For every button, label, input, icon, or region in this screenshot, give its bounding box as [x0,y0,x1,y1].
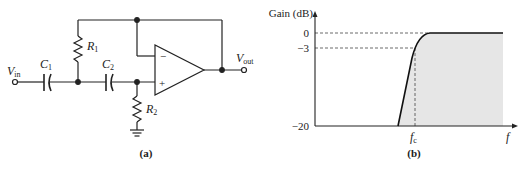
figure-canvas: Vin C1 C2 R1 R2 Vout − + (a) Gain (dB) 0… [0,0,527,169]
y-axis-arrow [313,11,318,17]
resistor-r2 [133,96,141,122]
y-axis-label: Gain (dB) [269,7,314,20]
resistor-r1 [74,36,82,62]
caption-a: (a) [140,147,153,160]
y-tick-minus20: −20 [292,120,310,132]
y-tick-minus3: −3 [297,42,309,54]
fc-label: fc [410,130,417,145]
vin-terminal [13,80,18,85]
ground-symbol [130,130,144,136]
vout-terminal [242,68,247,73]
circuit-diagram [13,18,247,136]
r1-label: R1 [86,39,98,54]
opamp-noninverting-sign: + [159,77,165,89]
caption-b: (b) [407,147,421,160]
c2-label: C2 [102,57,114,72]
c1-label: C1 [40,57,52,72]
passband-shading [398,33,503,126]
vout-label: Vout [236,51,254,66]
vin-label: Vin [7,64,21,79]
x-axis-arrow [512,124,518,129]
x-axis-label: f [506,130,511,144]
r2-label: R2 [145,102,157,117]
y-tick-0: 0 [304,27,310,39]
opamp-inverting-sign: − [160,50,166,62]
gain-chart: Gain (dB) 0 −3 −20 fc f (b) [269,7,518,160]
